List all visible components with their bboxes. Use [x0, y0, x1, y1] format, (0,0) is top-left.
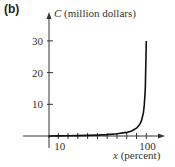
y-axis-label: C (million dollars): [54, 7, 136, 20]
svg-text:30: 30: [32, 35, 44, 47]
svg-text:10: 10: [54, 140, 66, 152]
y-axis-arrow-icon: [47, 12, 52, 19]
x-axis-arrow-icon: [158, 134, 165, 139]
y-ticks: 102030: [32, 35, 53, 110]
chart: 10100 102030 C (million dollars) x (perc…: [0, 0, 175, 167]
curve: [49, 41, 147, 136]
x-axis-label: x (percent): [112, 149, 161, 162]
svg-text:10: 10: [32, 98, 44, 110]
y-axis: [47, 12, 52, 138]
svg-text:20: 20: [32, 67, 44, 79]
